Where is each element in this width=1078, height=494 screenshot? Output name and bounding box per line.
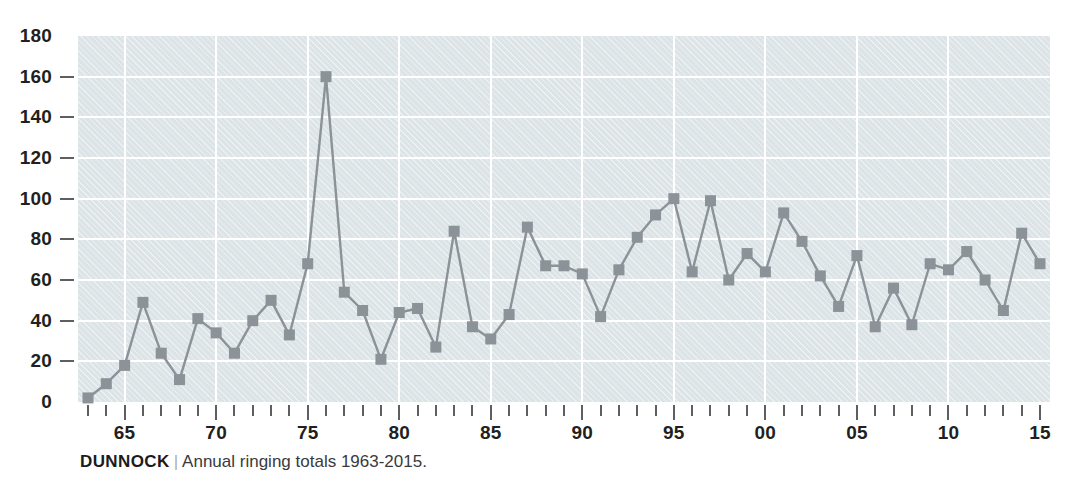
data-point-marker (595, 311, 606, 322)
y-axis-tick-mark (60, 116, 74, 118)
data-point-marker (137, 297, 148, 308)
data-point-marker (760, 266, 771, 277)
data-point-marker (906, 319, 917, 330)
x-axis-tick-minor (179, 405, 181, 416)
x-axis-tick-minor (874, 405, 876, 416)
x-axis-tick-major (581, 405, 583, 420)
data-point-marker (687, 266, 698, 277)
data-point-marker (485, 333, 496, 344)
x-axis-tick-minor (343, 405, 345, 416)
data-point-marker (650, 209, 661, 220)
x-axis-tick-minor (545, 405, 547, 416)
x-axis-tick-minor (600, 405, 602, 416)
plot-area (78, 36, 1050, 402)
data-point-marker (174, 374, 185, 385)
data-point-marker (851, 250, 862, 261)
data-point-marker (742, 248, 753, 259)
x-axis-tick-minor (160, 405, 162, 416)
x-axis-tick-minor (105, 405, 107, 416)
x-axis-tick-minor (929, 405, 931, 416)
x-axis-tick-label: 75 (297, 422, 319, 444)
data-point-marker (321, 71, 332, 82)
chart-caption: DUNNOCK|Annual ringing totals 1963-2015. (80, 452, 427, 472)
x-axis-tick-minor (636, 405, 638, 416)
x-axis-tick-minor (746, 405, 748, 416)
x-axis-tick-minor (417, 405, 419, 416)
x-axis-tick-minor (233, 405, 235, 416)
data-point-marker (1035, 258, 1046, 269)
x-axis-tick-minor (801, 405, 803, 416)
data-point-marker (577, 268, 588, 279)
x-axis: 6570758085909500051015 (0, 402, 1078, 452)
data-point-marker (266, 295, 277, 306)
x-axis-tick-minor (362, 405, 364, 416)
data-point-marker (925, 258, 936, 269)
data-point-marker (980, 275, 991, 286)
x-axis-tick-minor (819, 405, 821, 416)
x-axis-tick-minor (142, 405, 144, 416)
data-point-marker (1016, 228, 1027, 239)
data-point-marker (375, 354, 386, 365)
data-point-marker (357, 305, 368, 316)
y-axis-tick-label: 140 (20, 106, 52, 128)
y-axis-tick-mark (60, 76, 74, 78)
x-axis-tick-minor (508, 405, 510, 416)
x-axis-tick-minor (838, 405, 840, 416)
data-point-marker (247, 315, 258, 326)
y-axis-tick-mark (60, 198, 74, 200)
dunnock-ringing-totals-chart: 020406080100120140160180 657075808590950… (0, 0, 1078, 494)
x-axis-tick-major (398, 405, 400, 420)
caption-description: Annual ringing totals 1963-2015. (182, 452, 427, 471)
data-point-marker (394, 307, 405, 318)
x-axis-tick-minor (288, 405, 290, 416)
x-axis-tick-label: 80 (388, 422, 410, 444)
x-axis-tick-major (947, 405, 949, 420)
x-axis-tick-minor (435, 405, 437, 416)
data-point-marker (119, 360, 130, 371)
x-axis-tick-minor (709, 405, 711, 416)
x-axis-tick-major (490, 405, 492, 420)
y-axis-tick-label: 160 (20, 66, 52, 88)
data-point-marker (211, 327, 222, 338)
y-axis-tick-label: 180 (20, 25, 52, 47)
x-axis-tick-minor (1021, 405, 1023, 416)
x-axis-tick-minor (325, 405, 327, 416)
data-point-marker (613, 264, 624, 275)
y-axis-tick-mark (60, 279, 74, 281)
data-point-marker (339, 287, 350, 298)
x-axis-tick-minor (526, 405, 528, 416)
x-axis-tick-minor (252, 405, 254, 416)
y-axis-tick-mark (60, 320, 74, 322)
data-point-marker (632, 232, 643, 243)
data-point-marker (961, 246, 972, 257)
x-axis-tick-minor (197, 405, 199, 416)
data-point-marker (101, 378, 112, 389)
x-axis-tick-major (215, 405, 217, 420)
data-point-marker (449, 226, 460, 237)
x-axis-tick-minor (691, 405, 693, 416)
x-axis-tick-label: 00 (755, 422, 777, 444)
x-axis-tick-label: 10 (938, 422, 960, 444)
data-point-marker (229, 348, 240, 359)
caption-separator: | (170, 452, 182, 471)
x-axis-tick-minor (911, 405, 913, 416)
data-point-marker (467, 321, 478, 332)
x-axis-tick-label: 15 (1029, 422, 1051, 444)
data-point-marker (723, 275, 734, 286)
data-point-marker (888, 283, 899, 294)
data-point-marker (778, 207, 789, 218)
data-point-marker (504, 309, 515, 320)
x-axis-tick-major (307, 405, 309, 420)
data-point-marker (797, 236, 808, 247)
data-point-marker (870, 321, 881, 332)
x-axis-tick-minor (270, 405, 272, 416)
x-axis-tick-minor (563, 405, 565, 416)
data-point-marker (815, 270, 826, 281)
x-axis-tick-minor (471, 405, 473, 416)
y-axis-tick-mark (60, 157, 74, 159)
data-point-marker (998, 305, 1009, 316)
y-axis-tick-mark (60, 360, 74, 362)
data-point-marker (833, 301, 844, 312)
y-axis-tick-label: 40 (30, 310, 52, 332)
y-axis: 020406080100120140160180 (0, 0, 78, 402)
